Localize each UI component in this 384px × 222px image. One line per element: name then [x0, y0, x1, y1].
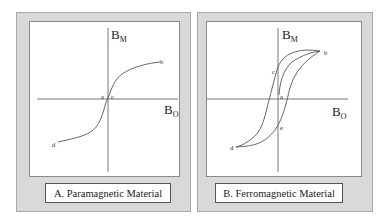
hysteresis-diagrams: BM BO a b c d BM BO a b c d e: [0, 0, 384, 222]
x-axis-label-paramagnetic: BO: [164, 102, 179, 119]
point-d-paramagnetic: d: [52, 141, 56, 148]
magnetization-curve-paramagnetic: [58, 62, 160, 142]
y-axis-label-paramagnetic: BM: [111, 27, 127, 44]
axes-paramagnetic: [37, 28, 178, 172]
point-b-ferromagnetic: b: [324, 49, 327, 56]
point-e-ferromagnetic: e: [280, 124, 283, 131]
point-a-ferromagnetic: a: [280, 93, 283, 100]
x-axis-label-ferromagnetic: BO: [332, 104, 347, 121]
point-d-ferromagnetic: d: [230, 144, 234, 151]
point-c-ferromagnetic: c: [272, 68, 275, 75]
point-b-paramagnetic: b: [160, 58, 163, 65]
y-axis-label-ferromagnetic: BM: [282, 27, 298, 44]
point-a-paramagnetic: a: [101, 93, 104, 100]
point-c-paramagnetic: c: [111, 93, 114, 100]
